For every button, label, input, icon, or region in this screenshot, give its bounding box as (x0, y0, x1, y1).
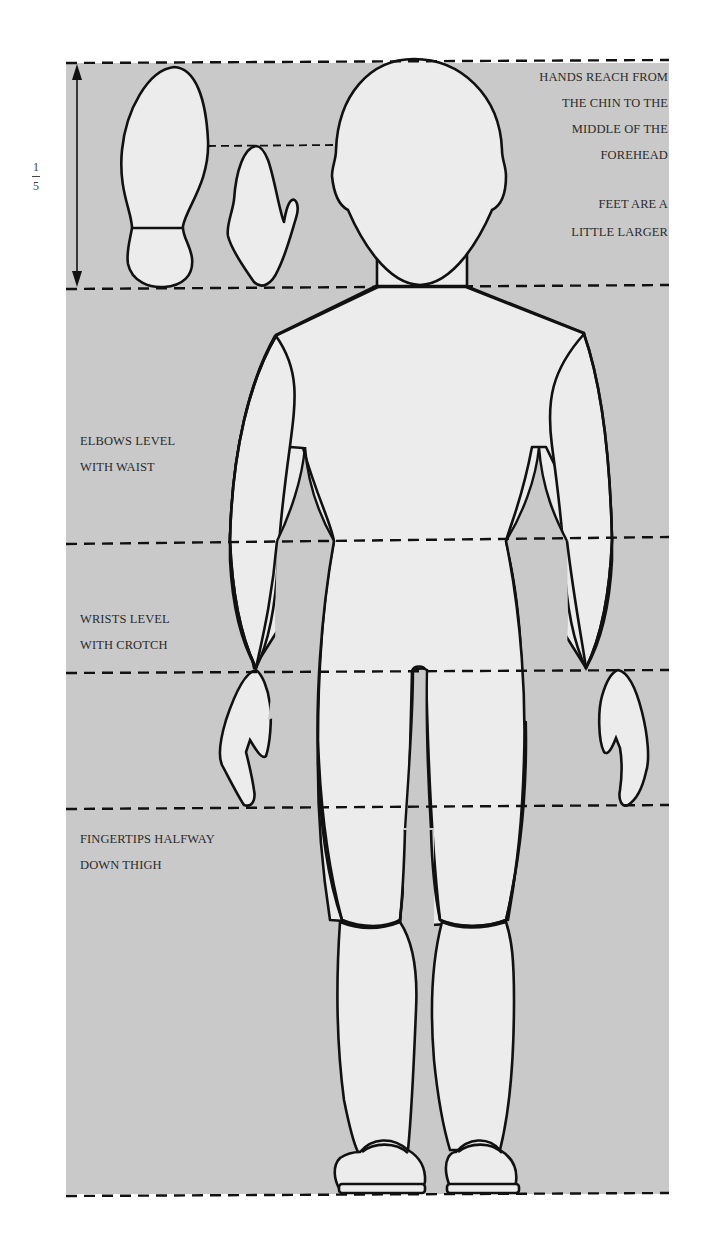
left-lower-leg (337, 922, 416, 1152)
right-lower-leg (432, 922, 514, 1150)
fraction-denominator: 5 (33, 179, 39, 193)
fraction-bar (32, 176, 40, 177)
note-elbows: ELBOWS LEVEL WITH WAIST (80, 428, 175, 480)
note-feet: FEET ARE A LITTLE LARGER (571, 190, 668, 246)
note-wrists: WRISTS LEVEL WITH CROTCH (80, 606, 170, 658)
guide-line-top (66, 60, 669, 63)
left-shoe-sole (339, 1184, 425, 1193)
right-shoe-sole (447, 1184, 519, 1193)
scale-fraction: 1 5 (26, 160, 46, 193)
fraction-numerator: 1 (33, 160, 39, 174)
note-hands: HANDS REACH FROM THE CHIN TO THE MIDDLE … (539, 64, 668, 168)
note-fingertips: FINGERTIPS HALFWAY DOWN THIGH (80, 826, 215, 878)
